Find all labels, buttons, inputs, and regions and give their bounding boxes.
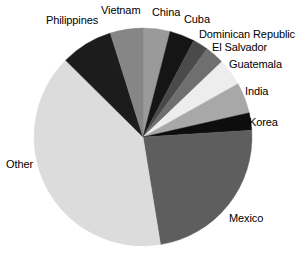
pie-label-cuba: Cuba <box>184 13 210 25</box>
pie-label-guatemala: Guatemala <box>229 58 282 70</box>
pie-label-korea: Korea <box>249 116 278 128</box>
pie-label-mexico: Mexico <box>229 212 263 224</box>
pie-label-china: China <box>152 6 180 18</box>
pie-chart-figure: Vietnam China Cuba Dominican Republic El… <box>0 0 298 261</box>
pie-label-vietnam: Vietnam <box>101 4 140 16</box>
pie-label-india: India <box>245 85 268 97</box>
pie-label-philippines: Philippines <box>46 14 98 26</box>
pie-label-other: Other <box>6 158 33 170</box>
pie-slice-mexico <box>143 130 252 244</box>
pie-slices-group <box>34 28 252 246</box>
pie-label-dominican-republic: Dominican Republic <box>199 28 295 40</box>
pie-label-el-salvador: El Salvador <box>212 41 267 53</box>
